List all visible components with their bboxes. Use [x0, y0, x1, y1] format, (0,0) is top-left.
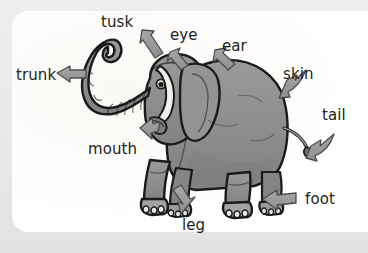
- label-tusk: tusk: [101, 15, 133, 30]
- hind-foot-near-toenails: [226, 210, 248, 218]
- label-trunk: trunk: [16, 68, 56, 83]
- front-foot-near-toenails: [143, 206, 164, 214]
- label-eye: eye: [170, 28, 198, 43]
- elephant-eye-pupil: [158, 82, 163, 87]
- elephant-trunk: [82, 40, 150, 115]
- label-leg: leg: [182, 218, 205, 233]
- label-tail: tail: [322, 108, 346, 123]
- hind-foot-far-toenails: [262, 208, 281, 215]
- tusk-arrow: [140, 30, 163, 58]
- label-skin: skin: [283, 67, 314, 82]
- elephant-body-group: [82, 40, 312, 218]
- label-ear: ear: [222, 39, 247, 54]
- front-leg-near: [144, 160, 170, 203]
- tail-arrow: [306, 134, 334, 161]
- label-foot: foot: [305, 192, 335, 207]
- label-mouth: mouth: [88, 142, 137, 157]
